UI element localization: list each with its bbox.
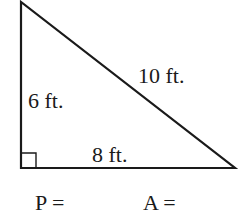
area-prompt: A = xyxy=(143,190,176,214)
triangle-diagram: 10 ft. 6 ft. 8 ft. P = A = xyxy=(0,0,243,214)
right-angle-marker xyxy=(21,153,36,168)
right-triangle xyxy=(21,2,235,168)
base-label: 8 ft. xyxy=(92,142,127,167)
vertical-leg-label: 6 ft. xyxy=(28,88,63,113)
perimeter-prompt: P = xyxy=(35,190,64,214)
hypotenuse-label: 10 ft. xyxy=(138,63,184,88)
